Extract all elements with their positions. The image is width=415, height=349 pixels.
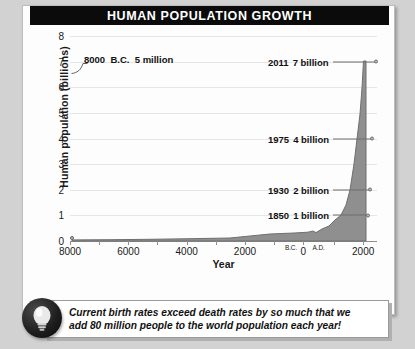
lightbulb-icon: [22, 298, 62, 338]
x-tick-label-2000bc: 2000: [234, 246, 256, 257]
x-tick-6000: [128, 241, 129, 245]
x-tick-minor-3000: [216, 241, 217, 245]
x-tick-label-ad: A.D.: [313, 244, 325, 251]
x-tick-label-2000ad: 2000: [352, 246, 374, 257]
annotation-8000bc-amount: 5 million: [135, 54, 174, 65]
x-tick-4000: [187, 241, 188, 245]
page-title: HUMAN POPULATION GROWTH: [107, 9, 312, 23]
caption-line-2: add 80 million people to the world popul…: [69, 320, 341, 331]
chart-container: Human population (billions) 8 7 6 5 4 3 …: [22, 25, 393, 287]
plot-area: 8 7 6 5 4 3 2 1 0 8000: [70, 36, 377, 241]
annotation-8000bc: 8000 B.C. 5 million: [84, 54, 173, 65]
y-tick-label-4: 4: [58, 133, 64, 144]
y-tick-label-2: 2: [58, 184, 64, 195]
x-tick-minor-1000ad: [334, 241, 335, 245]
x-tick-8000: [70, 241, 71, 245]
y-tick-label-3: 3: [58, 159, 64, 170]
x-tick-label-bc: B.C.: [285, 244, 297, 251]
y-tick-label-1: 1: [58, 210, 64, 221]
figure-title-bar: HUMAN POPULATION GROWTH: [30, 6, 389, 25]
caption-text: Current birth rates exceed death rates b…: [69, 306, 350, 333]
x-tick-label-6000: 6000: [117, 246, 139, 257]
annotation-8000bc-era: B.C.: [110, 54, 129, 65]
data-point-8000bc: [70, 236, 74, 240]
population-curve: [70, 36, 377, 241]
x-tick-2000bc: [245, 241, 246, 245]
x-tick-minor-5000: [157, 241, 158, 245]
x-tick-label-8000: 8000: [59, 246, 81, 257]
y-tick-label-6: 6: [58, 82, 64, 93]
x-tick-label-0: 0: [301, 246, 307, 257]
caption-line-1: Current birth rates exceed death rates b…: [69, 307, 350, 318]
y-tick-label-8: 8: [58, 31, 64, 42]
y-tick-label-7: 7: [58, 56, 64, 67]
annotation-8000bc-year: 8000: [84, 54, 105, 65]
x-tick-label-4000: 4000: [176, 246, 198, 257]
page-root: HUMAN POPULATION GROWTH Human population…: [0, 0, 415, 349]
caption-box: Current birth rates exceed death rates b…: [44, 300, 389, 338]
y-tick-label-0: 0: [58, 236, 64, 247]
y-tick-label-5: 5: [58, 107, 64, 118]
x-tick-zero: [303, 241, 304, 245]
x-tick-2000ad: [363, 241, 364, 245]
x-tick-minor-1000bc: [274, 241, 275, 245]
x-tick-minor-7000: [99, 241, 100, 245]
x-axis-title: Year: [70, 258, 377, 270]
